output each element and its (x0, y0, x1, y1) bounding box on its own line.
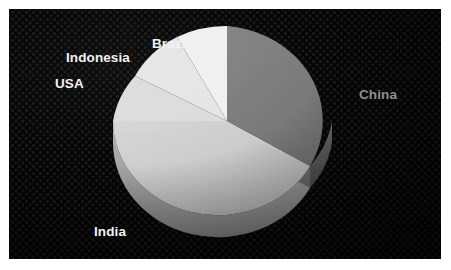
pie-label-india: India (94, 225, 126, 239)
chart-panel: Brazil Indonesia USA China India (9, 9, 441, 259)
pie-chart-figure: Brazil Indonesia USA China India (0, 0, 451, 270)
pie-top-faces (113, 26, 323, 215)
pie-label-indonesia: Indonesia (66, 51, 130, 65)
pie-label-brazil: Brazil (152, 37, 189, 51)
pie-label-china: China (359, 88, 397, 102)
pie-chart-graphic (9, 9, 441, 259)
pie-label-usa: USA (55, 77, 84, 91)
